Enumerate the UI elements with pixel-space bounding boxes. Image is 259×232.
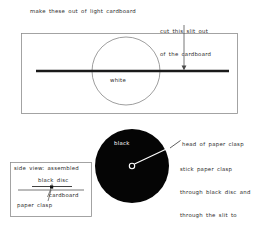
black-disc-label: black xyxy=(114,140,130,148)
cardboard-material-note: make these out of light cardboard xyxy=(30,8,136,16)
slit-callout-line-2: of the cardboard xyxy=(160,51,211,59)
instruction-line-3: through the slit to xyxy=(180,212,251,220)
side-view-paper-clasp-label: paper clasp xyxy=(17,202,52,210)
slit-callout-line-1: cut this slit out xyxy=(160,28,211,36)
craft-diagram: make these out of light cardboard cut th… xyxy=(0,0,259,232)
side-view-black-disc-label: black disc xyxy=(38,177,68,185)
head-label-leader-line xyxy=(170,141,181,149)
white-disc-label: white xyxy=(110,77,126,85)
instruction-line-1: stick paper clasp xyxy=(180,166,251,174)
paper-clasp-head-icon xyxy=(129,163,134,168)
side-view-title: side view: assembled xyxy=(14,165,79,173)
paper-clasp-head-label: head of paper clasp xyxy=(182,141,244,149)
slit-callout-note: cut this slit out of the cardboard xyxy=(160,13,211,74)
side-view-clasp-dot xyxy=(50,185,53,188)
instruction-line-2: through black disc and xyxy=(180,189,251,197)
assembly-instructions: stick paper clasp through black disc and… xyxy=(180,151,251,232)
side-view-cardboard-label: cardboard xyxy=(49,192,79,200)
